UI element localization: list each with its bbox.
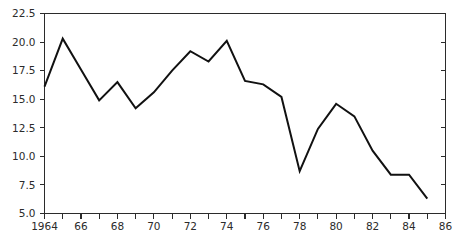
x-tick-label: 82 (366, 220, 379, 232)
y-tick-label: 17.5 (12, 64, 35, 76)
x-tick-label: 66 (74, 220, 88, 232)
data-series (45, 39, 428, 199)
x-axis-tick-labels: 19646668707274767880828486 (31, 220, 452, 232)
y-axis-ticks (40, 14, 45, 214)
y-tick-label: 15.0 (12, 93, 35, 105)
y-tick-label: 12.5 (12, 122, 35, 134)
x-tick-label: 1964 (31, 220, 58, 232)
axis-frame-path (45, 14, 446, 214)
y-axis-right-ticks (441, 14, 446, 214)
y-tick-label: 22.5 (12, 7, 35, 19)
x-axis-ticks (45, 214, 446, 219)
y-tick-label: 20.0 (12, 36, 35, 48)
x-tick-label: 80 (329, 220, 342, 232)
data-line-1 (45, 39, 428, 199)
x-tick-label: 84 (402, 220, 416, 232)
x-tick-label: 68 (111, 220, 124, 232)
line-chart: 5.07.510.012.515.017.520.022.5 196466687… (0, 0, 471, 251)
x-tick-label: 74 (220, 220, 234, 232)
y-tick-label: 10.0 (12, 150, 35, 162)
x-tick-label: 86 (439, 220, 453, 232)
chart-container: 5.07.510.012.515.017.520.022.5 196466687… (0, 0, 471, 251)
x-tick-label: 70 (147, 220, 160, 232)
y-axis-tick-labels: 5.07.510.012.515.017.520.022.5 (12, 7, 35, 219)
x-tick-label: 76 (257, 220, 271, 232)
x-tick-label: 72 (184, 220, 197, 232)
y-tick-label: 7.5 (19, 179, 36, 191)
x-tick-label: 78 (293, 220, 306, 232)
y-tick-label: 5.0 (19, 207, 36, 219)
plot-frame (45, 14, 446, 214)
